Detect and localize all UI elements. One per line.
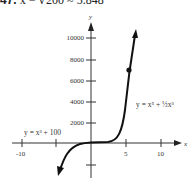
y-tick-label: 8000 xyxy=(70,56,85,64)
curve-arrow-down xyxy=(57,166,64,176)
x-tick-label: -10 xyxy=(16,150,26,158)
right-curve-label: y = x⁵ + ½x³ xyxy=(136,100,174,109)
y-axis-label: y xyxy=(88,13,93,21)
chart: x -10 5 10 y 10000 8000 6000 4000 2000 y… xyxy=(0,0,191,181)
y-tick-label: 10000 xyxy=(67,34,85,42)
left-curve-label: y = x³ + 100 xyxy=(24,128,61,137)
x-tick-label: 5 xyxy=(124,150,128,158)
y-axis: y 10000 8000 6000 4000 2000 xyxy=(67,13,97,178)
y-tick-label: 2000 xyxy=(70,119,85,127)
x-axis-label: x xyxy=(183,140,188,148)
intersection-point xyxy=(126,67,131,72)
y-tick-label: 4000 xyxy=(70,98,85,106)
curve-arrow-up xyxy=(132,29,138,38)
x-tick-label: 10 xyxy=(157,150,165,158)
y-tick-label: 6000 xyxy=(70,77,85,85)
